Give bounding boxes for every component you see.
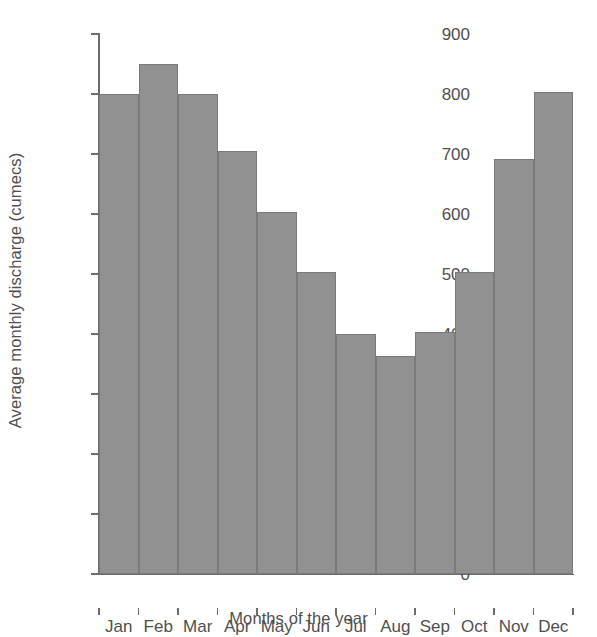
y-tick-label: 800 — [410, 86, 470, 103]
y-axis-title-text: Average monthly discharge (cumecs) — [7, 152, 26, 427]
bar-oct — [455, 272, 495, 574]
y-tick-mark — [91, 453, 99, 455]
y-tick-mark — [91, 573, 99, 575]
y-tick-mark — [91, 333, 99, 335]
bar-nov — [494, 159, 534, 574]
y-tick-mark — [91, 393, 99, 395]
y-tick-label: 900 — [410, 26, 470, 43]
bar-dec — [534, 92, 574, 574]
y-tick-label: 600 — [410, 206, 470, 223]
bar-jan — [99, 94, 139, 574]
bar-may — [257, 212, 297, 574]
y-tick-mark — [91, 93, 99, 95]
y-tick-mark — [91, 33, 99, 35]
bar-jun — [297, 272, 337, 574]
y-axis-title: Average monthly discharge (cumecs) — [0, 0, 32, 580]
bar-mar — [178, 94, 218, 574]
bar-feb — [139, 64, 179, 574]
bar-chart-figure: Average monthly discharge (cumecs) 90080… — [0, 0, 597, 637]
y-tick-label: 700 — [410, 146, 470, 163]
y-tick-mark — [91, 213, 99, 215]
y-tick-mark — [91, 273, 99, 275]
bar-aug — [376, 356, 416, 574]
bar-apr — [218, 151, 258, 574]
y-tick-mark — [91, 153, 99, 155]
y-tick-mark — [91, 513, 99, 515]
plot-area: 9008007006005004003002001000 JanFebMarAp… — [99, 34, 573, 574]
bar-jul — [336, 334, 376, 574]
x-axis-title: Months of the year — [0, 609, 597, 628]
bar-sep — [415, 332, 455, 574]
